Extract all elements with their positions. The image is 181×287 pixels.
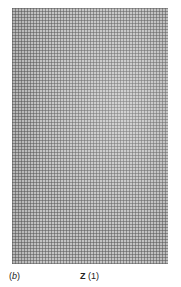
panel-label: (b) (9, 271, 20, 281)
panel-label-close: ) (17, 271, 20, 281)
figure-caption: Z (1) (80, 271, 99, 281)
caption-index: (1) (86, 271, 100, 281)
halftone-grid-image (12, 8, 168, 264)
